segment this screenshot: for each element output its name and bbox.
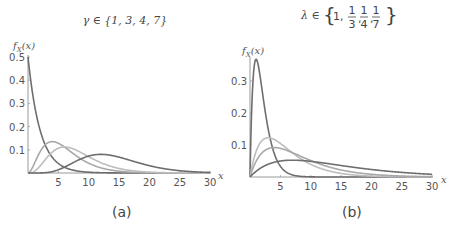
y-tick-label: 0.3 (9, 98, 25, 109)
x-tick-label: 15 (335, 181, 348, 192)
y-tick-label: 0.3 (231, 76, 247, 87)
chart-b-xlabel: x (441, 174, 447, 185)
right-brace: } (385, 3, 398, 27)
svg-text:fX(x): fX(x) (241, 45, 264, 59)
x-tick-label: 20 (365, 181, 378, 192)
chart-b-plot: λ ∈ { 1, 13,14,17 } fX(x) x 510152025300… (229, 0, 459, 200)
svg-text:1: 1 (349, 4, 356, 17)
svg-text:4: 4 (361, 18, 368, 31)
svg-text:λ ∈: λ ∈ (300, 9, 320, 22)
caption-a: (a) (112, 204, 132, 220)
curve--1 (28, 57, 210, 173)
svg-text:1: 1 (373, 4, 380, 17)
y-tick-label: 0.1 (9, 145, 25, 156)
svg-text:1,: 1, (333, 10, 344, 23)
y-tick-label: 0.2 (231, 108, 247, 119)
chart-b-curves (250, 59, 432, 177)
caption-b: (b) (342, 204, 362, 220)
x-tick-label: 5 (55, 177, 61, 188)
curve--1-3 (250, 138, 432, 177)
y-tick-label: 0.2 (9, 122, 25, 133)
x-tick-label: 10 (304, 181, 317, 192)
x-tick-label: 10 (82, 177, 95, 188)
chart-a-xlabel: x (218, 170, 224, 181)
chart-b-ylabel: fX(x) (241, 45, 264, 59)
chart-b-title: λ ∈ { 1, 13,14,17 } (300, 3, 398, 31)
curve--1 (250, 59, 432, 177)
panel-b: λ ∈ { 1, 13,14,17 } fX(x) x 510152025300… (229, 0, 459, 232)
panel-a: γ ∈ {1, 3, 4, 7} fX(x) x 510152025300.10… (0, 0, 229, 232)
x-tick-label: 15 (113, 177, 126, 188)
y-tick-label: 0.1 (231, 140, 247, 151)
chart-a-curves (28, 57, 210, 173)
x-tick-label: 30 (204, 177, 217, 188)
x-tick-label: 30 (426, 181, 439, 192)
x-tick-label: 25 (395, 181, 408, 192)
x-tick-label: 25 (173, 177, 186, 188)
curve--7 (28, 154, 210, 173)
chart-a-plot: γ ∈ {1, 3, 4, 7} fX(x) x 510152025300.10… (0, 0, 229, 200)
svg-text:3: 3 (349, 18, 356, 31)
x-tick-label: 20 (143, 177, 156, 188)
y-tick-label: 0.5 (9, 52, 25, 63)
svg-text:1: 1 (361, 4, 368, 17)
svg-text:7: 7 (373, 18, 380, 31)
chart-a-title: γ ∈ {1, 3, 4, 7} (83, 14, 168, 27)
x-tick-label: 5 (277, 181, 283, 192)
y-tick-label: 0.4 (9, 75, 25, 86)
